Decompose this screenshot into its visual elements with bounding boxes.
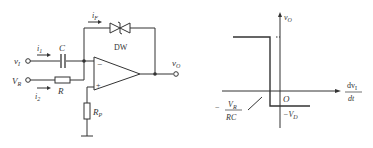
if-label: iF (92, 11, 98, 21)
junction-node (82, 59, 86, 63)
inverting-sign: − (97, 59, 102, 69)
noninverting-sign: + (96, 81, 101, 90)
diode-label: DW (114, 43, 128, 52)
capacitor-label: C (59, 43, 66, 53)
vo-label: vO (172, 58, 181, 69)
i2-label: i2 (35, 92, 40, 102)
y-axis-label: vO (284, 13, 293, 23)
i1-label: i1 (37, 44, 42, 54)
diagram-canvas: vI VR i1 i2 iF C R RP DW vO − + vO dvI d… (0, 0, 373, 148)
vi-label: vI (14, 56, 21, 67)
output-node (153, 72, 157, 76)
threshold-leader (248, 97, 262, 110)
threshold-denominator: RC (225, 113, 237, 122)
i1-arrow-icon (47, 53, 51, 57)
threshold-numerator: VR (228, 100, 237, 110)
i2-arrow-icon (47, 86, 51, 90)
resistor-p-label: RP (92, 107, 103, 118)
resistor-r (55, 77, 70, 83)
vr-label: VR (12, 76, 22, 87)
zener-diode-right (120, 23, 130, 33)
zener-diode-left (110, 23, 120, 33)
y-axis-arrow-icon (278, 12, 282, 17)
threshold-sign: − (215, 103, 220, 112)
vo-terminal (174, 72, 179, 77)
transfer-curve (233, 37, 310, 106)
if-arrow-icon (98, 20, 102, 24)
vr-terminal (26, 78, 31, 83)
x-axis-denominator: dt (348, 94, 355, 103)
resistor-rp (84, 103, 90, 119)
x-axis-numerator: dvI (347, 81, 357, 91)
vi-terminal (26, 59, 31, 64)
neg-level-label: −VD (283, 110, 298, 120)
x-axis-arrow-icon (335, 89, 341, 93)
origin-label: O (283, 94, 290, 104)
resistor-label: R (57, 86, 64, 96)
